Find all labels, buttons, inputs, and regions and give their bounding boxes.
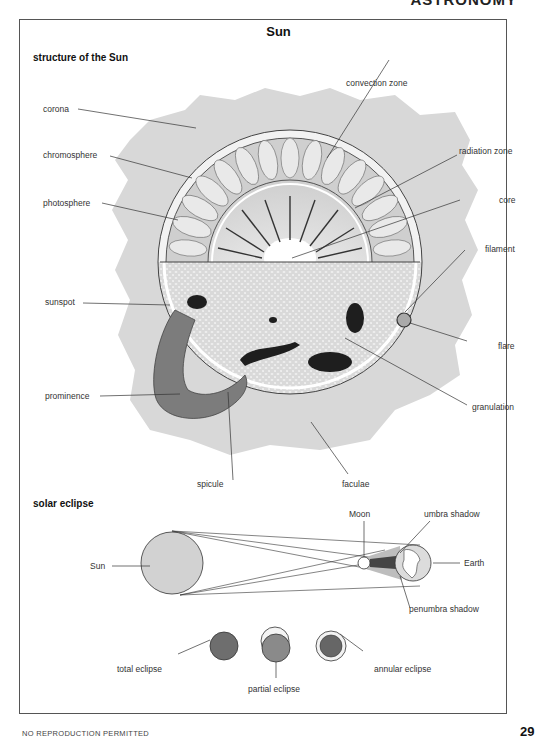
eclipse-sun [141,532,203,594]
total-eclipse-icon [210,632,238,660]
eclipse-moon [358,557,370,569]
footer-notice: NO REPRODUCTION PERMITTED [22,729,149,738]
eclipse-diagram [0,0,557,738]
label-penumbra: penumbra shadow [409,604,479,614]
label-eclipse-sun: Sun [90,561,105,571]
label-partial-eclipse: partial eclipse [248,684,300,694]
label-umbra: umbra shadow [424,509,480,519]
label-annular-eclipse: annular eclipse [374,664,431,674]
label-earth: Earth [464,558,484,568]
page-number: 29 [520,724,534,738]
label-moon: Moon [349,509,370,519]
annular-eclipse-icon [320,635,342,657]
partial-eclipse-icon [262,634,290,662]
label-total-eclipse: total eclipse [117,664,162,674]
